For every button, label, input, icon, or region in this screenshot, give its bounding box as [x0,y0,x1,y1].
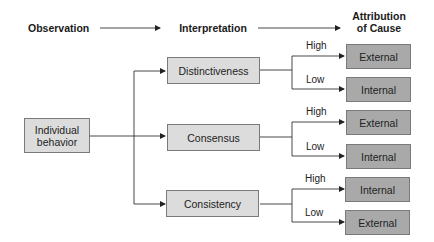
consensus-low-label: Low [306,141,324,152]
consistency-box: Consistency [166,190,259,217]
distinctiveness-box: Distinctiveness [167,57,260,84]
distinctiveness-high-label: High [306,40,327,51]
distinctiveness-low-label: Low [306,74,324,85]
consensus-high-attribution: External [346,110,411,135]
individual-behavior-line2: behavior [37,136,77,148]
consistency-low-attribution: External [345,210,410,235]
attribution-header: Attribution of Cause [350,10,408,34]
individual-behavior-line1: Individual [35,124,79,136]
attribution-header-line1: Attribution [350,10,408,22]
consensus-box: Consensus [167,124,260,151]
interpretation-header: Interpretation [178,22,248,34]
attribution-header-line2: of Cause [350,22,408,34]
distinctiveness-low-attribution: Internal [346,77,411,102]
consensus-high-label: High [306,106,327,117]
consistency-low-label: Low [305,207,323,218]
consensus-low-attribution: Internal [346,144,411,169]
consistency-high-label: High [305,173,326,184]
consistency-high-attribution: Internal [345,177,410,202]
distinctiveness-high-attribution: External [346,44,411,69]
individual-behavior-box: Individual behavior [24,118,90,153]
observation-header: Observation [28,22,88,34]
